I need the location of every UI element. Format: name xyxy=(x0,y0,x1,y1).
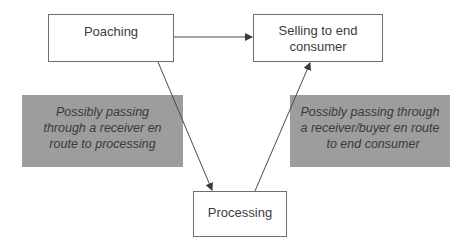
note-receiver-to-processing: Possibly passing through a receiver en r… xyxy=(22,95,183,167)
node-poaching: Poaching xyxy=(48,14,174,62)
note-right-line-2: a receiver/buyer en route xyxy=(290,120,450,136)
flow-diagram: Possibly passing through a receiver en r… xyxy=(0,0,472,248)
node-selling-label-line-1: Selling to end xyxy=(254,23,382,39)
node-processing-label: Processing xyxy=(194,205,286,221)
note-left-line-1: Possibly passing xyxy=(22,104,183,120)
node-poaching-label: Poaching xyxy=(49,24,173,40)
note-right-line-3: to end consumer xyxy=(290,136,450,152)
note-right-line-1: Possibly passing through xyxy=(290,104,450,120)
note-left-line-2: through a receiver en xyxy=(22,120,183,136)
note-left-line-3: route to processing xyxy=(22,136,183,152)
note-receiver-buyer-to-consumer: Possibly passing through a receiver/buye… xyxy=(290,95,450,167)
node-processing: Processing xyxy=(193,191,287,237)
node-selling-label-line-2: consumer xyxy=(254,39,382,55)
node-selling-to-end-consumer: Selling to end consumer xyxy=(253,14,383,62)
